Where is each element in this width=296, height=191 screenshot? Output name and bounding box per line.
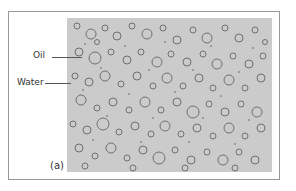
water-leader-line [45, 83, 71, 84]
micrograph-photo [67, 18, 272, 172]
droplet-pattern [67, 18, 272, 172]
oil-label: Oil [33, 50, 45, 60]
water-label: Water [17, 77, 44, 87]
panel-label: (a) [50, 160, 64, 171]
oil-leader-line [52, 57, 82, 58]
